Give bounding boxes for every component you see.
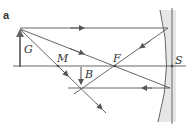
center-point: [57, 65, 59, 67]
concave-mirror-ray-diagram: a G M F S B: [0, 0, 195, 128]
object-label: G: [24, 43, 33, 56]
focus-label: F: [112, 52, 121, 65]
ray-direction-arrow: [96, 103, 102, 109]
ray-direction-arrow: [140, 41, 150, 48]
vertex-label: S: [175, 54, 183, 67]
image-label: B: [84, 68, 93, 81]
center-label: M: [56, 52, 69, 65]
focal-ray-reflected: [74, 28, 168, 94]
focus-point: [114, 65, 116, 67]
panel-label: a: [3, 9, 10, 21]
ray-direction-arrow: [70, 49, 84, 55]
vertex-point: [171, 65, 173, 67]
ray-direction-arrow: [60, 68, 68, 76]
